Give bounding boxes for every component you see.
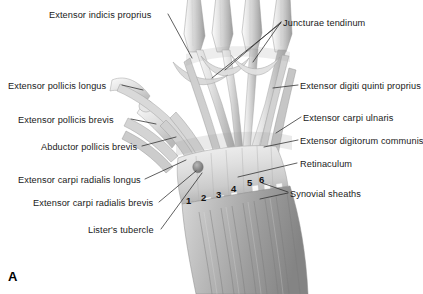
compartment-number-1: 1: [186, 196, 191, 206]
compartment-number-3: 3: [216, 190, 221, 200]
label-abductor-pollicis-brevis: Abductor pollicis brevis: [41, 143, 137, 152]
compartment-number-4: 4: [231, 184, 236, 194]
label-retinaculum: Retinaculum: [300, 160, 352, 169]
compartment-number-5: 5: [247, 178, 252, 188]
illustration-artwork: [110, 0, 308, 294]
label-extensor-pollicis-longus: Extensor pollicis longus: [8, 82, 106, 91]
listers-tubercle-marker: [193, 161, 203, 173]
label-extensor-pollicis-brevis: Extensor pollicis brevis: [18, 116, 114, 125]
compartment-number-6: 6: [259, 175, 264, 185]
metacarpal-rays-group: [184, 0, 292, 52]
label-extensor-indicis-proprius: Extensor indicis proprius: [49, 11, 151, 20]
panel-letter: A: [8, 270, 17, 283]
label-extensor-carpi-radialis-brevis: Extensor carpi radialis brevis: [33, 199, 153, 208]
label-extensor-digitorum-communis: Extensor digitorum communis: [300, 137, 423, 146]
anatomical-figure-panel: Extensor indicis proprius Juncturae tend…: [0, 0, 423, 294]
label-juncturae-tendinum: Juncturae tendinum: [283, 19, 365, 28]
label-synovial-sheaths: Synovial sheaths: [290, 190, 361, 199]
label-extensor-carpi-ulnaris: Extensor carpi ulnaris: [303, 114, 393, 123]
compartment-number-2: 2: [201, 193, 206, 203]
label-extensor-digiti-quinti-proprius: Extensor digiti quinti proprius: [300, 82, 421, 91]
label-listers-tubercle: Lister's tubercle: [88, 226, 154, 235]
label-extensor-carpi-radialis-longus: Extensor carpi radialis longus: [18, 176, 141, 185]
